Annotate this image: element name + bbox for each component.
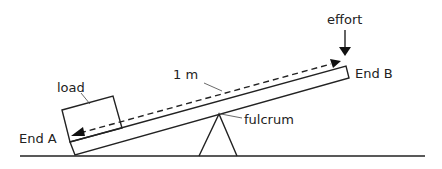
end-a-label: End A [19,131,57,146]
lever-plank [70,66,349,155]
fulcrum-triangle [199,114,237,156]
load-box [62,96,122,142]
load-label: load [57,80,85,95]
fulcrum-leader-line [221,114,242,118]
arrowhead-end-a [71,127,85,136]
length-label: 1 m [173,67,198,82]
length-leader-line [204,83,222,91]
effort-arrowhead [339,47,351,56]
arrowhead-end-b [330,59,341,68]
fulcrum-label: fulcrum [244,112,294,127]
end-b-label: End B [355,66,393,81]
effort-label: effort [327,12,362,27]
lever-diagram: effort End B 1 m load End A fulcrum [0,0,442,169]
